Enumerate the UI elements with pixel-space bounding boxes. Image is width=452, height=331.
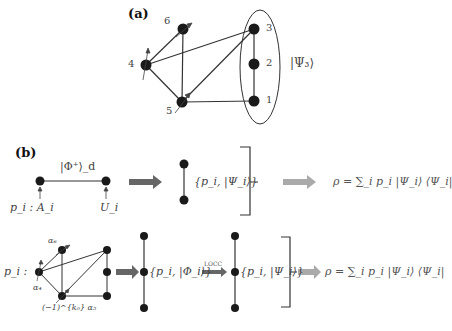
rho-formula-2: ρ = ∑_i p_i |Ψ_i⟩ ⟨Ψ_i| (325, 265, 444, 278)
locc-label: LOCC (204, 260, 222, 267)
dark-arrow-1 (129, 175, 162, 189)
node-6-label: 6 (164, 15, 170, 26)
alpha6-label: α₆ (48, 236, 57, 245)
ensemble-psi-1: {p_i, |Ψ_i⟩} (194, 175, 258, 188)
node-5-label: 5 (166, 105, 172, 116)
panel-a-label: (a) (128, 6, 149, 21)
rho-formula-1: ρ = ∑_i p_i |Ψ_i⟩ ⟨Ψ_i| (333, 175, 452, 188)
node-1-label: 1 (266, 94, 272, 105)
psi3-label: |Ψ₃⟩ (290, 56, 314, 70)
graph-a-nodes (141, 24, 260, 108)
light-arrow-1 (283, 175, 316, 189)
ensemble-psi-2: {p_i, |Ψ_i⟩} (240, 265, 304, 278)
node-3-label: 3 (266, 22, 272, 33)
panel-b-label: (b) (15, 145, 36, 160)
p-i-label: p_i : (4, 265, 27, 278)
node-4-label: 4 (128, 58, 134, 69)
party-a-caption: p_i : A_i (10, 201, 54, 214)
bell-state-label: |Φ⁺⟩_d (60, 160, 95, 173)
alpha4-label: α₄ (33, 283, 42, 292)
alpha5-label: (−1)^{k₀} α₅ (42, 303, 96, 312)
dark-arrow-2 (116, 265, 139, 279)
party-u-caption: U_i (100, 201, 118, 214)
node-2-label: 2 (266, 57, 272, 68)
ensemble-phi: {p_i, |Φ_i⟩} (149, 265, 212, 278)
psi3-ellipse (240, 10, 280, 124)
